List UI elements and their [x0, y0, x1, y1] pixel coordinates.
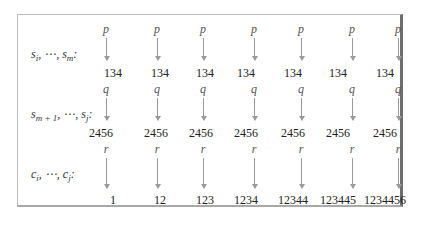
sequence-value: 134	[268, 66, 318, 81]
arrow-down-icon	[352, 98, 353, 120]
mapping-symbol-q: q	[295, 82, 307, 97]
arrow-down-icon	[106, 98, 107, 120]
arrow-down-icon	[203, 38, 204, 60]
mapping-symbol-r: r	[197, 142, 209, 157]
arrow-down-icon	[106, 158, 107, 188]
sequence-value: 2456	[313, 126, 363, 141]
sequence-value: 134	[360, 66, 410, 81]
mapping-symbol-r: r	[392, 142, 404, 157]
sequence-value: 123445	[313, 193, 363, 208]
arrow-down-icon	[254, 38, 255, 60]
mapping-symbol-q: q	[248, 82, 260, 97]
sequence-value: 134	[135, 66, 185, 81]
row-label-s-i-to-s-m: si, ⋯, sm:	[31, 47, 77, 63]
sequence-value: 1	[88, 193, 138, 208]
arrow-down-icon	[398, 158, 399, 188]
sequence-value: 134	[221, 66, 271, 81]
arrow-down-icon	[254, 158, 255, 188]
arrow-down-icon	[254, 98, 255, 120]
mapping-symbol-p: p	[100, 22, 112, 37]
mapping-symbol-p: p	[346, 22, 358, 37]
sequence-value: 12344	[268, 193, 318, 208]
arrow-down-icon	[106, 38, 107, 60]
sequence-value: 2456	[76, 126, 126, 141]
sequence-value: 2456	[221, 126, 271, 141]
row-label-s-m1-to-s-j: sm + 1, ⋯, sj:	[31, 107, 92, 123]
arrow-down-icon	[157, 38, 158, 60]
figure-caption	[0, 226, 431, 237]
mapping-symbol-q: q	[346, 82, 358, 97]
sequence-value: 134	[88, 66, 138, 81]
arrow-down-icon	[301, 38, 302, 60]
arrow-down-icon	[157, 158, 158, 188]
arrow-down-icon	[203, 98, 204, 120]
arrow-down-icon	[157, 98, 158, 120]
sequence-value: 12	[135, 193, 185, 208]
arrow-down-icon	[301, 158, 302, 188]
arrow-down-icon	[203, 158, 204, 188]
mapping-symbol-r: r	[295, 142, 307, 157]
sequence-value: 1234456	[360, 193, 410, 208]
sequence-value: 2456	[360, 126, 410, 141]
arrow-down-icon	[352, 158, 353, 188]
sequence-value: 1234	[221, 193, 271, 208]
arrow-down-icon	[398, 98, 399, 120]
sequence-value: 2456	[176, 126, 226, 141]
mapping-symbol-p: p	[151, 22, 163, 37]
mapping-symbol-p: p	[392, 22, 404, 37]
row-label-c-i-to-c-j: ci, ⋯, cj:	[31, 167, 75, 183]
mapping-symbol-r: r	[248, 142, 260, 157]
sequence-value: 2456	[131, 126, 181, 141]
arrow-down-icon	[398, 38, 399, 60]
arrow-down-icon	[352, 38, 353, 60]
mapping-symbol-p: p	[295, 22, 307, 37]
mapping-symbol-r: r	[100, 142, 112, 157]
mapping-symbol-r: r	[151, 142, 163, 157]
sequence-value: 134	[313, 66, 363, 81]
sequence-value: 2456	[268, 126, 318, 141]
mapping-symbol-q: q	[151, 82, 163, 97]
mapping-symbol-q: q	[100, 82, 112, 97]
mapping-symbol-r: r	[346, 142, 358, 157]
mapping-symbol-q: q	[197, 82, 209, 97]
mapping-symbol-p: p	[248, 22, 260, 37]
mapping-symbol-p: p	[197, 22, 209, 37]
arrow-down-icon	[301, 98, 302, 120]
mapping-symbol-q: q	[392, 82, 404, 97]
